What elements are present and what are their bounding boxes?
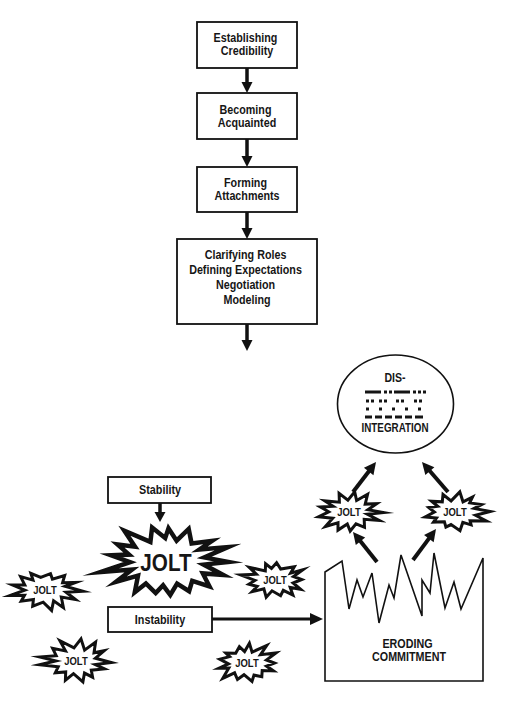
- pattern-dash: [385, 416, 392, 419]
- pattern-dot: [418, 391, 421, 394]
- arrow-shaft: [413, 538, 429, 560]
- eroding-commitment-line: COMMITMENT: [372, 649, 446, 663]
- disintegration-top-label: DIS-: [384, 371, 405, 384]
- pattern-dot: [401, 400, 404, 403]
- flow-arrow: [242, 68, 253, 93]
- arrow-shaft: [360, 541, 377, 562]
- pattern-dot: [379, 408, 382, 411]
- flow-step-line: Defining Expectations: [189, 262, 302, 276]
- pattern-dot: [405, 408, 408, 411]
- pattern-dot: [396, 400, 399, 403]
- flow-step: Establishing Credibility: [197, 22, 297, 68]
- arrow-head: [242, 156, 253, 167]
- pattern-dash: [394, 391, 410, 394]
- pattern-dot: [366, 400, 369, 403]
- pattern-dot: [392, 408, 395, 411]
- arrow-shaft: [429, 470, 448, 492]
- flow-step-line: Acquainted: [218, 115, 276, 129]
- central-jolt-label: JOLT: [140, 550, 192, 576]
- pattern-dot: [413, 391, 416, 394]
- pattern-dash: [415, 416, 423, 419]
- pattern-dash: [365, 416, 372, 419]
- arrow-head: [242, 228, 253, 239]
- arrow-to-disintegration: [353, 462, 376, 492]
- disintegration-bottom-label: INTEGRATION: [361, 421, 428, 434]
- eroding-commitment: ERODING COMMITMENT: [325, 553, 483, 681]
- jolt-burst: JOLT: [10, 573, 83, 610]
- arrow-head: [242, 340, 253, 351]
- pattern-dash: [365, 391, 381, 394]
- jolt-label: JOLT: [263, 575, 286, 587]
- instability-arrow: [212, 613, 323, 625]
- pattern-dash: [395, 416, 402, 419]
- flow-arrow: [242, 139, 253, 167]
- pattern-dot: [423, 391, 426, 394]
- pattern-dot: [414, 400, 417, 403]
- jolt-label: JOLT: [33, 585, 56, 597]
- jolt-burst: JOLT: [241, 563, 303, 598]
- arrow-head: [242, 82, 253, 93]
- pattern-dash: [375, 416, 382, 419]
- oval-outline: [338, 355, 454, 453]
- flow-step-label: Forming Attachments: [214, 175, 279, 202]
- stability-arrow: [155, 503, 166, 522]
- flow-arrow: [242, 212, 253, 239]
- pattern-dot: [389, 391, 392, 394]
- pattern-dot: [419, 400, 422, 403]
- pattern-dot: [384, 391, 387, 394]
- arrow-to-disintegration: [422, 462, 448, 492]
- jolt-label: JOLT: [64, 656, 87, 668]
- pattern-dot: [366, 408, 369, 411]
- arrow-to-jolt: [353, 532, 377, 562]
- pattern-dot: [384, 400, 387, 403]
- eroding-commitment-line: ERODING: [382, 636, 432, 650]
- stability-section: Stability JOLT Instability JOLT JOLT JOL…: [10, 477, 323, 682]
- flow-step-line: Establishing: [214, 30, 278, 44]
- jolt-burst: JOLT: [425, 492, 490, 531]
- flow-step-line: Credibility: [221, 43, 274, 57]
- flow-arrow: [242, 324, 253, 351]
- central-jolt-burst: JOLT: [101, 528, 228, 595]
- pattern-dot: [418, 408, 421, 411]
- flow-step-label: Becoming Acquainted: [218, 102, 276, 129]
- disintegration-oval: DIS-: [338, 355, 454, 453]
- arrow-head: [310, 613, 323, 625]
- stability-label: Stability: [139, 483, 182, 496]
- flow-step-line: Clarifying Roles: [205, 247, 287, 261]
- jolt-label: JOLT: [337, 507, 360, 519]
- jolt-label: JOLT: [443, 507, 466, 519]
- flow-step-line: Negotiation: [216, 277, 275, 291]
- jolt-label: JOLT: [235, 658, 258, 670]
- flow-step: Clarifying Roles Defining Expectations N…: [177, 239, 317, 324]
- arrow-to-jolt: [413, 529, 436, 560]
- arrow-head: [155, 512, 166, 522]
- eroding-commitment-label: ERODING COMMITMENT: [372, 636, 446, 663]
- pattern-dot: [379, 400, 382, 403]
- jolt-burst: JOLT: [219, 643, 276, 681]
- flow-step: Becoming Acquainted: [197, 93, 297, 139]
- flowchart: Establishing Credibility Becoming Acquai…: [177, 22, 317, 351]
- pattern-dash: [405, 416, 412, 419]
- pattern-dot: [371, 400, 374, 403]
- flow-step-label: Establishing Credibility: [214, 30, 281, 57]
- jolt-burst: JOLT: [319, 492, 384, 531]
- flow-step-line: Forming: [224, 175, 267, 189]
- relationship-development-diagram: Establishing Credibility Becoming Acquai…: [0, 0, 506, 706]
- instability-label: Instability: [135, 613, 186, 626]
- jolt-burst: JOLT: [39, 639, 111, 682]
- flow-step-line: Attachments: [214, 188, 279, 202]
- flow-step-line: Modeling: [223, 292, 270, 306]
- flow-step: Forming Attachments: [197, 167, 297, 212]
- flow-step-line: Becoming: [220, 102, 272, 116]
